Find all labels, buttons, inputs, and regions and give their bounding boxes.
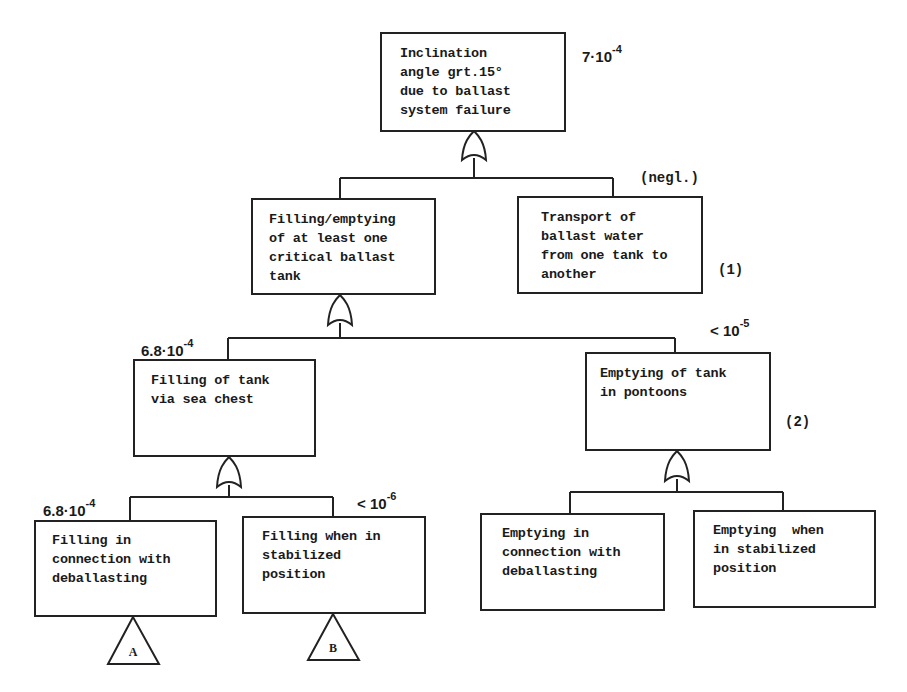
event-box-emptying-pontoons[interactable]: Emptying of tank in pontoons	[585, 352, 771, 451]
transport-note: (1)	[718, 262, 743, 278]
event-line: in pontoons	[600, 383, 761, 402]
event-line: Filling when in	[262, 527, 416, 546]
event-box-filling-sea-chest[interactable]: Filling of tank via sea chest	[133, 359, 316, 457]
event-line: deballasting	[502, 562, 655, 581]
event-line: from one tank to	[541, 246, 693, 265]
transfer-b-label[interactable]: B	[323, 641, 343, 656]
probability-exponent: -4	[86, 497, 96, 509]
top-event-probability: 7·10-4	[582, 46, 622, 65]
event-line: critical ballast	[269, 248, 426, 267]
top-event-line-1: Inclination	[400, 44, 556, 63]
event-box-filling-emptying[interactable]: Filling/emptying of at least one critica…	[251, 198, 436, 295]
probability-base: 6.8·10	[43, 502, 86, 519]
event-line: Emptying in	[502, 524, 655, 543]
transfer-a-label[interactable]: A	[123, 645, 143, 660]
event-line: Emptying of tank	[600, 364, 761, 383]
event-box-filling-stabilized[interactable]: Filling when in stabilized position	[242, 516, 426, 614]
sea-chest-probability: 6.8·10-4	[141, 340, 193, 359]
event-line: position	[713, 559, 866, 578]
probability-base: 7·10	[582, 48, 612, 65]
top-event-line-4: system failure	[400, 101, 556, 120]
event-line: connection with	[502, 543, 655, 562]
transport-annotation: (negl.)	[640, 170, 699, 186]
probability-base: < 10	[710, 322, 740, 339]
event-box-filling-deballasting[interactable]: Filling in connection with deballasting	[34, 520, 217, 617]
or-gate-pontoons-icon	[665, 451, 689, 481]
or-gate-top-icon	[462, 131, 486, 160]
probability-exponent: -4	[612, 43, 622, 55]
or-gate-sea-chest-icon	[217, 457, 241, 487]
top-event-box[interactable]: Inclination angle grt.15° due to ballast…	[380, 32, 566, 132]
event-line: stabilized	[262, 546, 416, 565]
probability-exponent: -5	[740, 317, 750, 329]
event-line: tank	[269, 267, 426, 286]
event-line: via sea chest	[151, 390, 306, 409]
pontoons-probability: < 10-5	[710, 320, 749, 339]
event-line: another	[541, 265, 693, 284]
event-line: Filling/emptying	[269, 210, 426, 229]
event-line: Filling in	[52, 531, 207, 550]
probability-base: < 10	[357, 495, 387, 512]
event-line: connection with	[52, 550, 207, 569]
event-line: ballast water	[541, 227, 693, 246]
probability-base: 6.8·10	[141, 342, 184, 359]
or-gate-level2-icon	[328, 295, 352, 325]
event-box-transport[interactable]: Transport of ballast water from one tank…	[517, 196, 703, 294]
top-event-line-2: angle grt.15°	[400, 63, 556, 82]
event-line: deballasting	[52, 569, 207, 588]
event-line: Emptying when	[713, 521, 866, 540]
event-line: Filling of tank	[151, 371, 306, 390]
top-event-line-3: due to ballast	[400, 82, 556, 101]
event-box-emptying-deballasting[interactable]: Emptying in connection with deballasting	[480, 513, 665, 611]
event-line: in stabilized	[713, 540, 866, 559]
probability-exponent: -4	[184, 337, 194, 349]
filling-deballasting-probability: 6.8·10-4	[43, 500, 95, 519]
event-line: Transport of	[541, 208, 693, 227]
pontoons-note: (2)	[785, 414, 810, 430]
event-line: of at least one	[269, 229, 426, 248]
filling-stabilized-probability: < 10-6	[357, 493, 396, 512]
event-box-emptying-stabilized[interactable]: Emptying when in stabilized position	[693, 510, 876, 608]
probability-exponent: -6	[387, 490, 397, 502]
event-line: position	[262, 565, 416, 584]
